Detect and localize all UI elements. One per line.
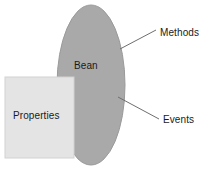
diagram-canvas: Bean Properties Methods Events: [0, 0, 224, 171]
methods-label: Methods: [160, 27, 199, 38]
properties-label: Properties: [13, 110, 60, 121]
events-label: Events: [163, 114, 194, 125]
diagram-vector-layer: [0, 0, 224, 171]
methods-callout-line: [120, 30, 156, 49]
bean-label: Bean: [74, 60, 98, 71]
